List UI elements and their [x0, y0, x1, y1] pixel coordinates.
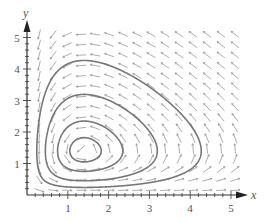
orbit-innermost	[70, 138, 101, 162]
x-tick-label-4: 4	[187, 202, 193, 214]
y-axis-label: y	[22, 6, 29, 20]
x-tick-label-1: 1	[65, 202, 71, 214]
x-tick-label-2: 2	[106, 202, 112, 214]
phase-portrait-chart: x y 1 2 3 4 5 1 2 3 4 5	[0, 0, 274, 222]
y-tick-label-2: 2	[14, 126, 20, 138]
x-axis-arrow-icon	[236, 192, 248, 199]
y-axis-arrow-icon	[24, 20, 31, 32]
y-tick-label-1: 1	[14, 158, 20, 170]
y-tick-label-3: 3	[14, 95, 20, 107]
y-tick-label-5: 5	[14, 32, 20, 44]
x-tick-label-5: 5	[228, 202, 234, 214]
x-tick-label-3: 3	[147, 202, 153, 214]
y-tick-label-4: 4	[14, 63, 20, 75]
x-axis-label: x	[250, 188, 257, 202]
